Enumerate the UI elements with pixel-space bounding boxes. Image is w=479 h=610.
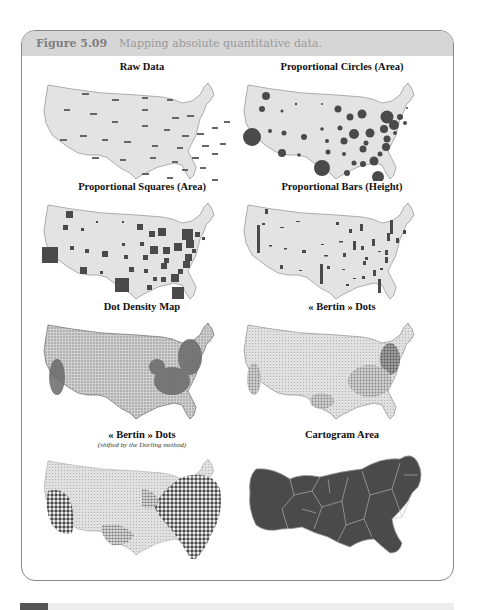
panel-bertin-dots: « Bertin » Dots <box>242 301 442 421</box>
panel-proportional-bars: Proportional Bars (Height) <box>242 181 442 301</box>
us-map-squares <box>42 181 242 301</box>
us-map-circles <box>242 61 442 181</box>
cartogram-map <box>242 429 442 559</box>
us-map-bertin <box>242 301 442 421</box>
us-map-raw-data <box>42 61 242 181</box>
figure-frame: Figure 5.09 Mapping absolute quantitativ… <box>21 30 454 581</box>
panel-bertin-dorling: « Bertin » Dots (shifted by the Dorling … <box>42 429 242 559</box>
us-map-bars <box>242 181 442 301</box>
figure-caption: Mapping absolute quantitative data. <box>119 37 322 50</box>
figure-label: Figure 5.09 <box>36 37 107 50</box>
panel-proportional-squares: Proportional Squares (Area) <box>42 181 242 301</box>
cartogram-shape <box>250 456 421 553</box>
us-map-bertin-dorling <box>42 429 242 559</box>
page-footer-tab <box>20 603 48 610</box>
us-map-dot-density <box>42 301 242 421</box>
panel-dot-density: Dot Density Map <box>42 301 242 421</box>
page-footer-strip <box>20 603 454 610</box>
panel-proportional-circles: Proportional Circles (Area) <box>242 61 442 181</box>
figure-header: Figure 5.09 Mapping absolute quantitativ… <box>22 31 453 56</box>
panel-raw-data: Raw Data <box>42 61 242 181</box>
panel-cartogram-area: Cartogram Area <box>242 429 442 559</box>
